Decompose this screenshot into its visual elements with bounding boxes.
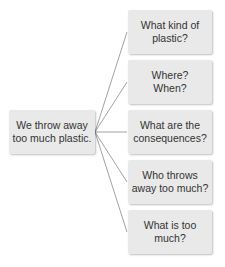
branch-node-who-throws: Who throws away too much? bbox=[128, 160, 212, 204]
branch-node-consequences: What are the consequences? bbox=[128, 110, 212, 154]
branch-node-kind-of-plastic: What kind of plastic? bbox=[128, 10, 212, 54]
branch-node-where-when: Where? When? bbox=[128, 60, 212, 104]
root-node: We throw away too much plastic. bbox=[9, 110, 95, 154]
branch-node-too-much: What is too much? bbox=[128, 210, 212, 254]
